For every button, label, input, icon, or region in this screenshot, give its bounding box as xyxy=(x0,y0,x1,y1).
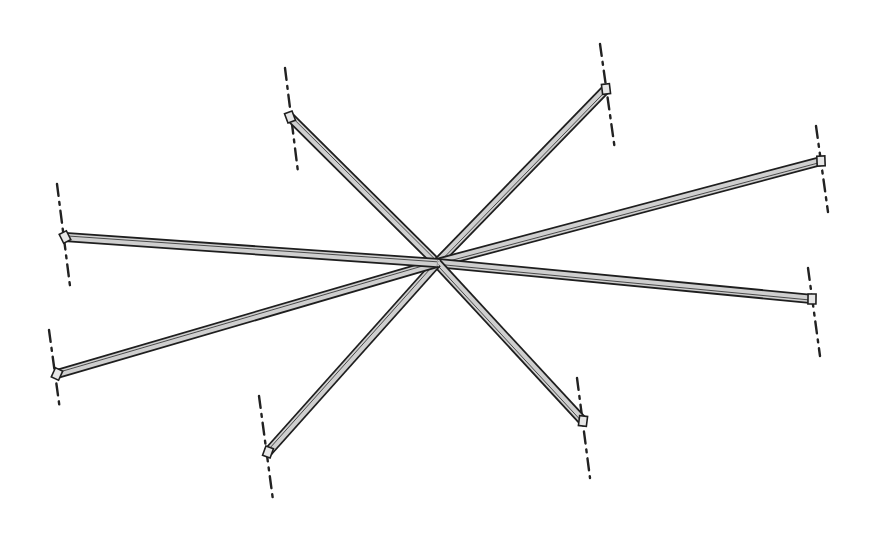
axis-lines xyxy=(49,44,828,500)
beam-diagram-canvas xyxy=(0,0,873,539)
beam-end-cap-upper-left xyxy=(285,111,296,123)
beam-right-upper xyxy=(437,161,821,264)
axis-line-lower-right xyxy=(577,378,590,478)
beam-diagram xyxy=(0,0,873,539)
beam-end-cap-lower-right xyxy=(578,416,587,427)
beam-end-cap-upper-right xyxy=(601,84,610,95)
beam-end-cap-right-upper xyxy=(817,156,825,166)
axis-line-right-upper xyxy=(816,126,828,212)
beam-end-cap-left-lower xyxy=(51,368,62,380)
beam-left-upper xyxy=(65,236,437,263)
axis-line-right-lower xyxy=(808,268,820,356)
beam-right-lower xyxy=(437,263,812,300)
beam-end-cap-lower-left xyxy=(263,446,274,458)
beam-upper-left xyxy=(290,116,438,263)
beams xyxy=(57,89,822,452)
beam-left-lower xyxy=(57,262,437,374)
beam-lower-right xyxy=(436,263,583,422)
beam-end-cap-right-lower xyxy=(808,294,816,304)
